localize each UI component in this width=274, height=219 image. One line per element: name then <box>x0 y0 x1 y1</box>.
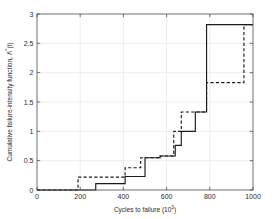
xtick-label-2: 400 <box>118 193 130 200</box>
ytick-label-1: 0.5 <box>24 157 34 164</box>
y-axis-title-text: Cumulative failure-intensity function, <box>6 57 14 162</box>
figure-container: 0200400600800100000.511.522.53 Cycles to… <box>0 0 274 219</box>
ytick-label-0: 0 <box>30 187 34 194</box>
x-axis-title-text: Cycles to failure (10 <box>114 206 172 214</box>
x-axis-title: Cycles to failure (103) <box>114 205 176 214</box>
xtick-label-5: 1000 <box>245 193 261 200</box>
ytick-label-6: 3 <box>30 11 34 18</box>
svg-text:Cumulative failure-intensity f: Cumulative failure-intensity function,Λ^… <box>5 42 14 161</box>
xtick-label-3: 600 <box>161 193 173 200</box>
xtick-label-1: 200 <box>74 193 86 200</box>
xtick-label-0: 0 <box>35 193 39 200</box>
ytick-label-2: 1 <box>30 128 34 135</box>
chart-canvas: 0200400600800100000.511.522.53 Cycles to… <box>0 0 274 219</box>
ytick-label-5: 2.5 <box>24 40 34 47</box>
ytick-label-3: 1.5 <box>24 99 34 106</box>
y-axis-title: Cumulative failure-intensity function,Λ^… <box>5 42 14 161</box>
xtick-label-4: 800 <box>204 193 216 200</box>
svg-text:Cycles to failure (103): Cycles to failure (103) <box>114 205 176 214</box>
ytick-label-4: 2 <box>30 69 34 76</box>
